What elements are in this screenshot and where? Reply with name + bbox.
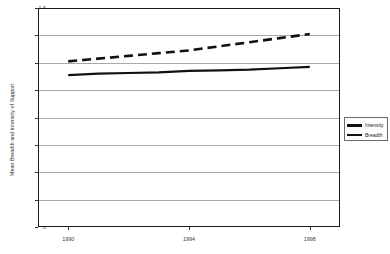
legend-label: Intensity [365,123,384,128]
legend-swatch-intensity [347,124,362,127]
chart-figure: Mean Breadth and Intensity of Support 1.… [0,0,390,254]
legend-swatch-breadth [347,134,362,136]
series-layer [0,0,390,254]
legend-item: Breadth [345,130,387,140]
series-line-breadth [68,67,310,75]
legend-label: Breadth [365,133,383,138]
legend-item: Intensity [345,120,387,130]
chart-legend: IntensityBreadth [344,117,388,141]
series-line-intensity [68,34,310,61]
